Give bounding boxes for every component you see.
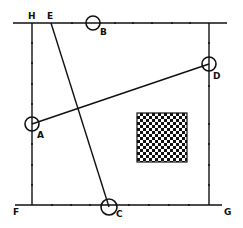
label-a: A bbox=[37, 130, 44, 140]
label-g: G bbox=[224, 207, 231, 217]
label-h: H bbox=[28, 11, 36, 21]
label-c: C bbox=[116, 209, 123, 219]
label-f: F bbox=[13, 207, 19, 217]
checkerboard-square bbox=[137, 113, 187, 162]
label-d: D bbox=[213, 71, 220, 81]
label-b: B bbox=[100, 27, 107, 37]
label-e: E bbox=[47, 11, 53, 21]
geometry-diagram: H E B D A F C G bbox=[0, 0, 243, 228]
